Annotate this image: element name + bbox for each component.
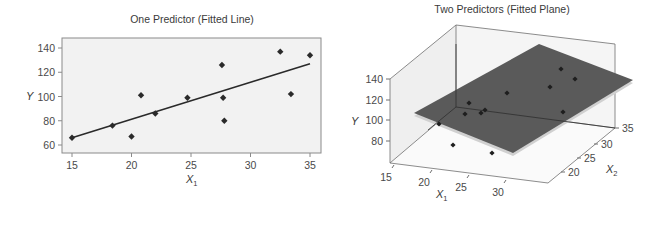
y-tick-label: 140: [365, 73, 383, 85]
chart-title: Two Predictors (Fitted Plane): [434, 3, 569, 15]
x1-tick-label: 20: [418, 176, 430, 188]
y-axis-label: Y: [351, 115, 359, 127]
y-tick-label: 100: [365, 114, 383, 126]
y-axis: 80100120140: [365, 73, 390, 147]
x2-tick-label: 35: [622, 122, 634, 134]
y-tick-label: 120: [365, 94, 383, 106]
x2-tick-label: 30: [601, 138, 613, 150]
x1-axis-label: X1: [435, 188, 448, 203]
x1-tick-label: 15: [380, 171, 392, 183]
x2-axis-label: X2: [605, 163, 618, 178]
x1-tick-label: 30: [492, 186, 504, 198]
x1-tick-label: 25: [455, 181, 467, 193]
y-tick-label: 80: [371, 135, 383, 147]
two-predictors-chart: Two Predictors (Fitted Plane): [0, 0, 657, 225]
figure: One Predictor (Fitted Line) 608010012014…: [0, 0, 657, 225]
x2-tick-label: 25: [584, 152, 596, 164]
x2-tick-label: 20: [568, 166, 580, 178]
